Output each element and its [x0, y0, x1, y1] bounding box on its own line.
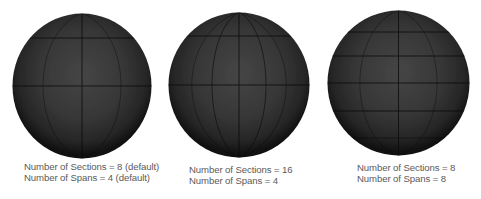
caption: Number of Sections = 8 (default) Number … [24, 162, 159, 183]
caption-sections: Number of Sections = 16 [189, 165, 293, 176]
caption-sections: Number of Sections = 8 (default) [24, 162, 159, 173]
caption-sections: Number of Sections = 8 [357, 163, 455, 174]
caption: Number of Sections = 16 Number of Spans … [189, 165, 293, 186]
sphere-wireframe-sections-8-spans-4 [12, 13, 152, 159]
caption-spans: Number of Spans = 4 [189, 176, 293, 187]
panel-sections-16-spans-4: Number of Sections = 16 Number of Spans … [160, 0, 320, 199]
panel-sections-8-spans-4: Number of Sections = 8 (default) Number … [0, 0, 160, 199]
caption-spans: Number of Spans = 8 [357, 174, 455, 185]
sphere-wireframe-sections-8-spans-8 [327, 10, 470, 156]
caption-spans: Number of Spans = 4 (default) [24, 173, 159, 184]
caption: Number of Sections = 8 Number of Spans =… [357, 163, 455, 184]
panel-sections-8-spans-8: Number of Sections = 8 Number of Spans =… [320, 0, 481, 199]
sphere-wireframe-sections-16-spans-4 [168, 12, 310, 158]
